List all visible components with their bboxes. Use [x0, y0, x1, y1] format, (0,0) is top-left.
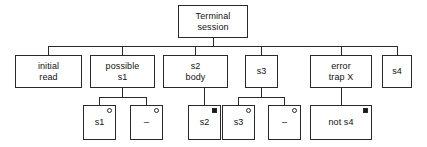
node-label: s4 — [390, 66, 404, 77]
filled-square-marker-icon — [212, 108, 217, 113]
open-circle-marker-icon — [154, 108, 159, 113]
node-label: error trap X — [327, 61, 356, 83]
open-circle-marker-icon — [107, 108, 112, 113]
open-circle-marker-icon — [292, 108, 297, 113]
node-possible-s1: possible s1 — [90, 55, 155, 88]
node-label: Terminal session — [194, 11, 233, 33]
node-label: possible s1 — [104, 61, 142, 83]
node-s4-branch: s4 — [382, 55, 412, 88]
node-label: s2 — [198, 117, 212, 128]
node-label: s3 — [232, 117, 246, 128]
filled-square-marker-icon — [363, 108, 368, 113]
structure-chart-diagram: Terminal sessioninitial readpossible s1s… — [0, 0, 427, 147]
node-label: initial read — [36, 61, 61, 83]
node-label: s3 — [255, 66, 269, 77]
node-error-trap-x: error trap X — [310, 55, 372, 88]
node-terminal-session: Terminal session — [178, 5, 248, 38]
node-label: – — [280, 117, 289, 128]
node-s3-branch: s3 — [245, 55, 278, 88]
node-label: not s4 — [326, 117, 355, 128]
node-initial-read: initial read — [15, 55, 82, 88]
node-label: s1 — [93, 117, 107, 128]
node-s2-body: s2 body — [163, 55, 228, 88]
node-label: – — [142, 117, 151, 128]
open-circle-marker-icon — [246, 108, 251, 113]
node-label: s2 body — [184, 61, 208, 83]
